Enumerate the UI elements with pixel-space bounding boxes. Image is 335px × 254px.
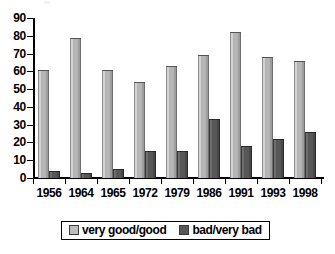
bar (273, 139, 284, 178)
y-tick-mark (27, 89, 33, 90)
bar (209, 119, 220, 178)
legend-label: bad/very bad (192, 224, 261, 236)
y-tick-mark (27, 71, 33, 72)
x-tick-label: 1956 (32, 186, 66, 200)
x-tick-label: 1998 (288, 186, 322, 200)
bar-group (193, 18, 225, 178)
bar (177, 151, 188, 178)
bar (70, 38, 81, 178)
y-tick-label: 50 (2, 83, 26, 95)
y-tick-label: 80 (2, 30, 26, 42)
bar (113, 169, 124, 178)
bar (241, 146, 252, 178)
light-gray-swatch-icon (69, 225, 79, 235)
bar-group (225, 18, 257, 178)
bar (134, 82, 145, 178)
y-tick-mark (27, 160, 33, 161)
bar (102, 70, 113, 178)
y-tick-label: 60 (2, 65, 26, 77)
legend-item-very-good-good: very good/good (69, 224, 166, 236)
x-tick-label: 1979 (160, 186, 194, 200)
x-tick-label: 1986 (192, 186, 226, 200)
x-tick-label: 1972 (128, 186, 162, 200)
bar (262, 57, 273, 178)
bar (230, 32, 241, 178)
bar (305, 132, 316, 178)
x-tick-label: 1964 (64, 186, 98, 200)
x-axis: 195619641965197219791986199119931998 (33, 186, 324, 202)
x-tick-mark (257, 179, 258, 184)
y-tick-mark (27, 107, 33, 108)
bar-group (33, 18, 65, 178)
bar (49, 171, 60, 178)
y-tick-label: 90 (2, 12, 26, 24)
x-tick-mark (321, 179, 322, 184)
bar (81, 173, 92, 178)
bar-chart: 9080706050403020100 19561964196519721979… (0, 0, 335, 254)
y-tick-mark (27, 36, 33, 37)
bar-group (65, 18, 97, 178)
y-tick-label: 70 (2, 48, 26, 60)
x-tick-mark (97, 179, 98, 184)
bar (145, 151, 156, 178)
y-tick-label: 20 (2, 136, 26, 148)
y-axis: 9080706050403020100 (0, 0, 26, 254)
y-tick-mark (27, 142, 33, 143)
x-tick-label: 1993 (256, 186, 290, 200)
x-tick-label: 1991 (224, 186, 258, 200)
bar-group (97, 18, 129, 178)
y-tick-mark (27, 18, 33, 19)
x-tick-mark (65, 179, 66, 184)
x-tick-label: 1965 (96, 186, 130, 200)
bar-group (129, 18, 161, 178)
legend-item-bad-very-bad: bad/very bad (179, 224, 261, 236)
x-tick-mark (225, 179, 226, 184)
y-tick-label: 10 (2, 154, 26, 166)
plot-area (33, 18, 321, 178)
cropped-edge-artifact (44, 1, 50, 4)
chart-legend: very good/good bad/very bad (61, 221, 270, 240)
x-tick-mark (193, 179, 194, 184)
bar (198, 55, 209, 178)
bar (294, 61, 305, 178)
y-tick-mark (27, 54, 33, 55)
bar-group (161, 18, 193, 178)
bar (166, 66, 177, 178)
legend-label: very good/good (82, 224, 166, 236)
x-tick-mark (161, 179, 162, 184)
x-tick-mark (33, 179, 34, 184)
dark-gray-swatch-icon (179, 225, 189, 235)
y-tick-mark (27, 125, 33, 126)
bar (38, 70, 49, 178)
y-tick-label: 40 (2, 101, 26, 113)
y-tick-label: 30 (2, 119, 26, 131)
x-tick-mark (129, 179, 130, 184)
bar-group (289, 18, 321, 178)
bar-group (257, 18, 289, 178)
y-tick-label: 0 (2, 172, 26, 184)
x-tick-mark (289, 179, 290, 184)
